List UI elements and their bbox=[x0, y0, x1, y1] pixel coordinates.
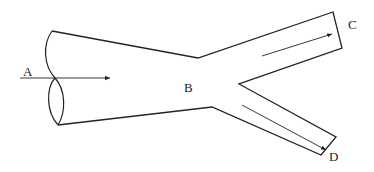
label-d: D bbox=[329, 149, 338, 164]
flow-arrow-d bbox=[242, 105, 326, 150]
flow-arrow-c bbox=[262, 34, 332, 56]
label-a: A bbox=[23, 64, 33, 79]
label-c: C bbox=[348, 17, 357, 32]
top-wall bbox=[52, 12, 342, 155]
label-b: B bbox=[184, 80, 193, 95]
pipe-diagram: A B C D bbox=[0, 0, 374, 172]
flow-arrows bbox=[20, 34, 332, 150]
pipe-outline bbox=[52, 12, 342, 155]
